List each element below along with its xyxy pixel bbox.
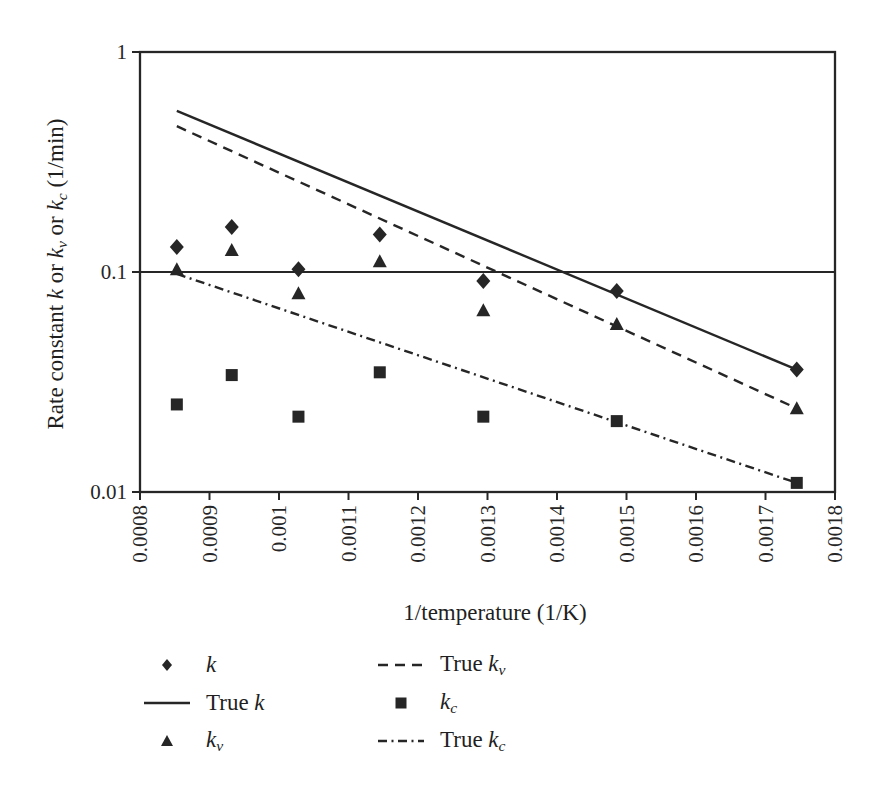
text-segment: c xyxy=(450,699,457,716)
marker-k-diamond xyxy=(170,239,184,255)
marker-kc-square xyxy=(791,477,803,489)
legend-item-kv: kv xyxy=(142,722,265,760)
text-segment: k xyxy=(43,289,68,299)
text-segment: k xyxy=(488,727,498,752)
legend-item-true-kc: True kc xyxy=(376,722,506,760)
legend-marker-true-kv xyxy=(376,653,426,677)
marker-kc-square xyxy=(477,411,489,423)
legend-diamond-icon xyxy=(142,653,192,677)
legend-marker-true-kc xyxy=(376,729,426,753)
marker-kv-triangle xyxy=(790,401,804,414)
text-segment: or xyxy=(43,258,68,289)
marker-k-diamond xyxy=(373,227,387,243)
x-tick-label: 0.0013 xyxy=(476,505,500,563)
x-tick-label: 0.001 xyxy=(267,505,291,552)
marker-kc-square xyxy=(171,398,183,410)
text-segment: k xyxy=(206,727,216,752)
legend-item-kc: kc xyxy=(376,684,506,722)
legend-marker-kc xyxy=(376,691,426,715)
x-tick-label: 0.0015 xyxy=(615,505,639,563)
legend-column-2: True kvkcTrue kc xyxy=(376,646,506,760)
text-segment: v xyxy=(216,737,223,754)
line-true-kc xyxy=(177,274,797,483)
x-tick-label: 0.0009 xyxy=(198,505,222,563)
text-segment: k xyxy=(254,690,264,715)
line-true-kv xyxy=(177,126,797,408)
y-tick-label: 0.1 xyxy=(101,260,127,284)
text-segment: v xyxy=(53,241,70,248)
marker-kv-triangle xyxy=(291,286,305,299)
text-segment: True xyxy=(440,651,488,676)
legend-item-true-k: True k xyxy=(142,684,265,722)
legend-solid-line-icon xyxy=(142,691,192,715)
text-segment: k xyxy=(43,200,68,210)
legend-triangle-icon xyxy=(142,729,192,753)
x-tick-label: 0.0008 xyxy=(128,505,152,563)
text-segment: Rate constant xyxy=(43,299,68,429)
marker-k-diamond xyxy=(291,261,305,277)
arrhenius-rate-constant-figure: 0.00080.00090.0010.00110.00120.00130.001… xyxy=(0,0,884,799)
x-tick-label: 0.0018 xyxy=(823,505,847,563)
x-tick-label: 0.0016 xyxy=(684,505,708,563)
legend-square-icon xyxy=(376,691,426,715)
text-segment: (1/min) xyxy=(43,119,68,194)
legend-dashed-line-icon xyxy=(376,653,426,677)
y-tick-label: 0.01 xyxy=(90,480,127,504)
marker-k-diamond xyxy=(225,219,239,235)
legend-label-kv: kv xyxy=(206,727,223,755)
y-tick-label: 1 xyxy=(117,40,128,64)
legend-label-true-k: True k xyxy=(206,690,265,716)
legend-label-true-kv: True kv xyxy=(440,651,506,679)
x-tick-label: 0.0017 xyxy=(754,505,778,563)
y-axis-title: Rate constant k or kv or kc (1/min) xyxy=(41,34,71,514)
legend-label-true-kc: True kc xyxy=(440,727,506,755)
marker-k-diamond xyxy=(790,362,804,378)
text-segment: k xyxy=(206,652,216,677)
text-segment: k xyxy=(488,651,498,676)
text-segment: True xyxy=(206,690,254,715)
legend-item-k: k xyxy=(142,646,265,684)
legend-label-kc: kc xyxy=(440,689,457,717)
text-segment: True xyxy=(440,727,488,752)
legend-label-k: k xyxy=(206,652,216,678)
legend-marker-kv xyxy=(142,729,192,753)
marker-kv-triangle xyxy=(170,262,184,275)
legend-dashdot-line-icon xyxy=(376,729,426,753)
x-tick-label: 0.0014 xyxy=(545,505,569,563)
marker-k-diamond xyxy=(476,273,490,289)
x-tick-label: 0.0012 xyxy=(406,505,430,563)
text-segment: c xyxy=(499,737,506,754)
text-segment: v xyxy=(499,661,506,678)
legend-marker-k xyxy=(142,653,192,677)
text-segment: or xyxy=(43,210,68,241)
text-segment: k xyxy=(43,248,68,258)
marker-kc-square xyxy=(611,415,623,427)
legend-item-true-kv: True kv xyxy=(376,646,506,684)
legend: kTrue kkvTrue kvkcTrue kc xyxy=(0,646,884,766)
x-axis-title: 1/temperature (1/K) xyxy=(340,600,650,626)
marker-kc-square xyxy=(292,411,304,423)
text-segment: k xyxy=(440,689,450,714)
legend-marker-true-k xyxy=(142,691,192,715)
marker-kc-square xyxy=(226,369,238,381)
line-true-k xyxy=(177,111,797,370)
x-tick-label: 0.0011 xyxy=(337,505,361,562)
text-segment: c xyxy=(53,193,70,200)
marker-kv-triangle xyxy=(476,303,490,316)
legend-column-1: kTrue kkv xyxy=(142,646,265,760)
marker-kc-square xyxy=(374,366,386,378)
marker-kv-triangle xyxy=(373,254,387,267)
marker-kv-triangle xyxy=(225,243,239,256)
